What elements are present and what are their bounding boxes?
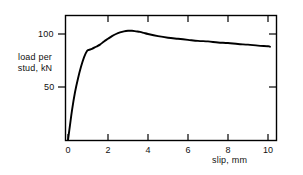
x-axis-title: slip, mm [212,155,247,166]
x-axis-ticks [68,134,268,141]
plot-frame [66,16,277,141]
x-tick-label-4: 4 [140,145,156,155]
data-series-line [68,31,270,140]
y-tick-label-100: 100 [38,29,54,39]
x-tick-label-8: 8 [220,145,236,155]
y-axis-title-line-2: stud, kN [8,63,62,74]
right-axis-ticks [269,34,276,87]
x-tick-label-10: 10 [260,145,276,155]
top-axis-ticks [108,16,268,22]
y-tick-label-50: 50 [44,82,54,92]
y-axis-title-line-1: load per [8,52,62,63]
x-tick-label-6: 6 [180,145,196,155]
y-axis-title: load per stud, kN [8,52,62,74]
chart-figure: 100 50 0 2 4 6 8 10 load per stud, kN sl… [0,0,303,175]
x-tick-label-2: 2 [100,145,116,155]
frame-box [66,16,277,141]
x-tick-label-0: 0 [60,145,76,155]
